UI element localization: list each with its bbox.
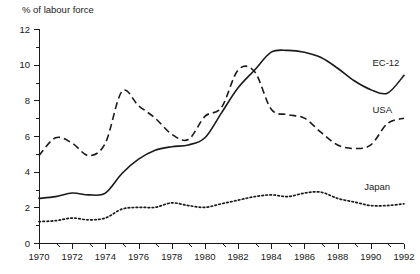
x-axis-tick-label: 1986 xyxy=(294,251,315,262)
series-label-usa: USA xyxy=(372,104,392,115)
x-tick-minor xyxy=(57,244,61,248)
x-axis-tick-label: 1984 xyxy=(261,251,282,262)
tick-labels-layer: 0246810121970197219741976197819801982198… xyxy=(19,24,414,262)
x-axis-tick-label: 1990 xyxy=(360,251,381,262)
y-axis-tick-label: 4 xyxy=(25,166,30,177)
series-line-japan xyxy=(39,192,404,222)
x-tick-minor xyxy=(355,244,359,248)
chart-plot-area: 0246810121970197219741976197819801982198… xyxy=(0,0,420,274)
y-axis-tick-label: 8 xyxy=(25,95,30,106)
x-tick-minor xyxy=(189,244,193,248)
x-tick-minor xyxy=(90,244,94,248)
x-axis-tick-label: 1976 xyxy=(128,251,149,262)
axis-lines xyxy=(40,29,405,244)
x-tick-minor xyxy=(388,244,392,248)
y-axis-tick-label: 0 xyxy=(25,238,30,249)
x-axis-tick-label: 1988 xyxy=(327,251,348,262)
series-labels-layer: EC-12USAJapan xyxy=(364,57,399,191)
y-axis-tick-label: 2 xyxy=(25,202,30,213)
series-line-ec-12 xyxy=(39,50,404,198)
series-line-usa xyxy=(39,66,404,155)
series-label-japan: Japan xyxy=(364,181,390,192)
x-tick-minor xyxy=(322,244,326,248)
x-axis-tick-label: 1972 xyxy=(62,251,83,262)
y-axis-tick-label: 12 xyxy=(19,24,30,35)
y-axis-tick-label: 6 xyxy=(25,131,30,142)
series-label-ec-12: EC-12 xyxy=(372,57,399,68)
y-axis-tick-label: 10 xyxy=(19,59,30,70)
tick-marks-layer xyxy=(34,30,405,250)
x-axis-tick-label: 1970 xyxy=(28,251,49,262)
x-axis-tick-label: 1978 xyxy=(161,251,182,262)
x-tick-minor xyxy=(156,244,160,248)
x-tick-minor xyxy=(223,244,227,248)
axes-layer xyxy=(40,29,405,244)
x-axis-tick-label: 1982 xyxy=(228,251,249,262)
x-axis-tick-label: 1974 xyxy=(95,251,116,262)
x-tick-minor xyxy=(289,244,293,248)
data-series-layer xyxy=(39,50,404,222)
unemployment-rate-chart: % of labour force 0246810121970197219741… xyxy=(0,0,420,274)
x-axis-tick-label: 1980 xyxy=(194,251,215,262)
x-tick-minor xyxy=(123,244,127,248)
x-axis-tick-label: 1992 xyxy=(393,251,414,262)
x-tick-minor xyxy=(256,244,260,248)
